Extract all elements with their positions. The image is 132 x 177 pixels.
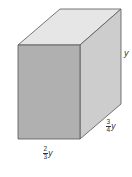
- front-face: [18, 45, 80, 139]
- depth-fraction: 3 4: [106, 119, 111, 133]
- depth-label: 3 4 y: [106, 119, 115, 133]
- depth-variable: y: [111, 121, 115, 131]
- width-label: 2 3 y: [43, 146, 52, 160]
- width-denominator: 3: [44, 154, 48, 161]
- width-variable: y: [48, 148, 52, 158]
- height-label: y: [124, 49, 129, 58]
- depth-denominator: 4: [107, 127, 111, 134]
- width-fraction: 2 3: [43, 146, 48, 160]
- prism-figure: [0, 0, 132, 177]
- height-variable: y: [124, 48, 129, 58]
